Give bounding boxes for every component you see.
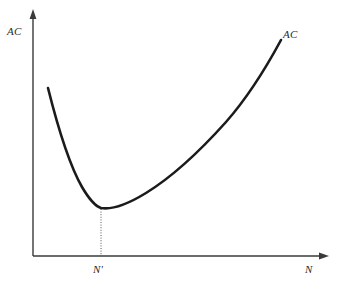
ac-curve-path [48,40,281,208]
x-axis-label: N [305,263,313,275]
chart-canvas [0,0,340,290]
x-axis-arrowhead [319,253,329,260]
ac-curve-label: AC [283,28,297,40]
average-cost-curve-figure: AC AC N' N [0,0,340,290]
y-axis-label: AC [7,25,21,37]
y-axis-arrowhead [30,9,37,19]
x-axis-tick-label-n-prime: N' [93,263,103,275]
